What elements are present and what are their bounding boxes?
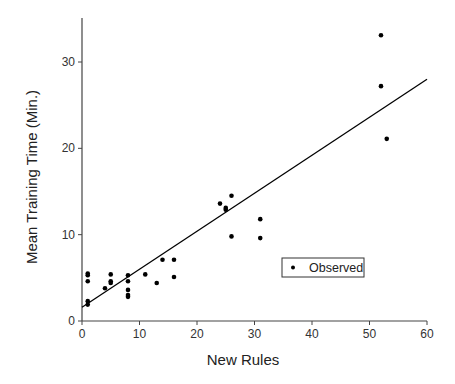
data-point [172, 257, 177, 262]
data-point [160, 257, 165, 262]
data-point [258, 217, 263, 222]
y-tick-label: 30 [62, 55, 76, 69]
x-tick-label: 60 [420, 327, 434, 341]
x-tick-label: 20 [190, 327, 204, 341]
legend-label-observed: Observed [309, 261, 363, 275]
y-tick-label: 0 [68, 314, 75, 328]
data-point [379, 33, 384, 38]
data-point [85, 279, 90, 284]
x-tick-label: 50 [363, 327, 377, 341]
data-point [379, 84, 384, 89]
x-tick-label: 40 [305, 327, 319, 341]
y-axis: 0102030 [62, 18, 82, 328]
data-point [126, 295, 131, 300]
x-axis-title: New Rules [207, 351, 280, 368]
fit-line [82, 79, 427, 307]
data-point [154, 281, 159, 286]
data-point [126, 273, 131, 278]
x-tick-label: 30 [248, 327, 262, 341]
x-axis: 0102030405060 [79, 321, 434, 341]
data-point [126, 288, 131, 293]
x-tick-label: 10 [133, 327, 147, 341]
data-point [229, 194, 234, 199]
data-point [108, 281, 113, 286]
scatter-chart: 0102030 0102030405060 Observed New Rules… [0, 0, 455, 384]
data-point [223, 207, 228, 212]
data-point [85, 302, 90, 307]
y-axis-title: Mean Training Time (Min.) [23, 90, 40, 264]
data-point [258, 236, 263, 241]
data-point [108, 272, 113, 277]
data-point [172, 275, 177, 280]
y-tick-label: 10 [62, 228, 76, 242]
trend-line [82, 79, 427, 307]
data-point [218, 201, 223, 206]
data-point [143, 272, 148, 277]
data-point [103, 286, 108, 291]
data-point [126, 279, 131, 284]
data-point [85, 273, 90, 278]
x-tick-label: 0 [79, 327, 86, 341]
data-point [229, 234, 234, 239]
data-point [384, 137, 389, 142]
y-tick-label: 20 [62, 141, 76, 155]
legend-marker-icon [291, 266, 295, 270]
legend: Observed [282, 258, 364, 277]
